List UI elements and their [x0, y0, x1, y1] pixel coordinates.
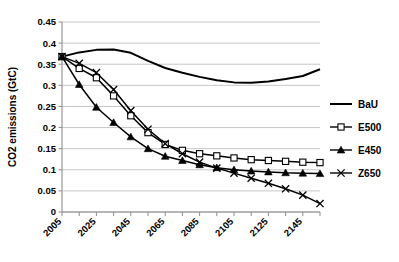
series-marker-E500: [265, 157, 271, 163]
co2-emissions-line-chart: 00.050.10.150.20.250.30.350.40.452005202…: [0, 0, 399, 262]
y-tick-label-0.35: 0.35: [38, 59, 57, 70]
x-tick-label-2125: 2125: [247, 215, 270, 238]
series-marker-E500: [248, 157, 254, 163]
series-marker-E500: [179, 147, 185, 153]
x-tick-label-2025: 2025: [75, 215, 98, 238]
x-tick-label-2145: 2145: [281, 215, 304, 238]
y-tick-label-0.4: 0.4: [43, 38, 57, 49]
y-tick-label-0.15: 0.15: [38, 143, 57, 154]
series-marker-E500: [197, 151, 203, 157]
legend-label-BaU: BaU: [358, 99, 378, 110]
y-tick-label-0.05: 0.05: [38, 185, 57, 196]
series-marker-E500: [283, 158, 289, 164]
y-tick-label-0.2: 0.2: [43, 122, 56, 133]
legend-label-E450: E450: [358, 145, 382, 156]
y-tick-label-0.3: 0.3: [43, 80, 56, 91]
y-axis-title: CO2 emissions (GtC): [7, 67, 18, 167]
legend-label-Z650: Z650: [358, 168, 381, 179]
legend-label-E500: E500: [358, 122, 382, 133]
series-marker-E500: [231, 155, 237, 161]
x-tick-label-2085: 2085: [178, 215, 201, 238]
x-tick-label-2045: 2045: [109, 215, 132, 238]
x-tick-label-2005: 2005: [41, 215, 64, 238]
series-marker-E500: [111, 93, 117, 99]
y-tick-label-0.45: 0.45: [38, 16, 57, 27]
x-tick-label-2105: 2105: [213, 215, 236, 238]
legend-marker-E500: [338, 124, 344, 130]
chart-container: 00.050.10.150.20.250.30.350.40.452005202…: [0, 0, 399, 262]
series-marker-E500: [300, 159, 306, 165]
y-tick-label-0.25: 0.25: [38, 101, 57, 112]
x-tick-label-2065: 2065: [144, 215, 167, 238]
series-marker-E500: [317, 160, 323, 166]
series-marker-E500: [145, 130, 151, 136]
y-tick-label-0.1: 0.1: [43, 164, 57, 175]
series-marker-E500: [214, 153, 220, 159]
